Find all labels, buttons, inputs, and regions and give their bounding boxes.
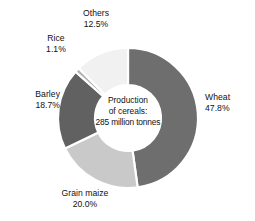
center-label-line2: of cereals: xyxy=(86,106,170,117)
slice-label-barley-value: 18.7% xyxy=(2,100,60,111)
slice-label-grain-maize-name: Grain maize xyxy=(36,188,134,199)
slice-label-wheat-value: 47.8% xyxy=(205,103,253,114)
slice-label-barley-name: Barley xyxy=(2,89,60,100)
slice-label-rice-value: 1.1% xyxy=(26,44,86,55)
center-label-line1: Production xyxy=(86,95,170,106)
slice-label-barley: Barley 18.7% xyxy=(2,89,60,110)
center-label-line3: 285 million tonnes xyxy=(86,117,170,128)
slice-label-grain-maize-value: 20.0% xyxy=(36,199,134,210)
slice-label-others-name: Others xyxy=(60,8,132,19)
slice-label-rice-name: Rice xyxy=(26,33,86,44)
slice-label-others-value: 12.5% xyxy=(60,19,132,30)
slice-label-rice: Rice 1.1% xyxy=(26,33,86,54)
donut-center-label: Production of cereals: 285 million tonne… xyxy=(86,95,170,129)
slice-label-others: Others 12.5% xyxy=(60,8,132,29)
slice-label-grain-maize: Grain maize 20.0% xyxy=(36,188,134,209)
slice-label-wheat: Wheat 47.8% xyxy=(205,92,253,113)
slice-label-wheat-name: Wheat xyxy=(205,92,253,103)
chart-screenshot: Others 12.5% Rice 1.1% Barley 18.7% Grai… xyxy=(0,0,255,221)
